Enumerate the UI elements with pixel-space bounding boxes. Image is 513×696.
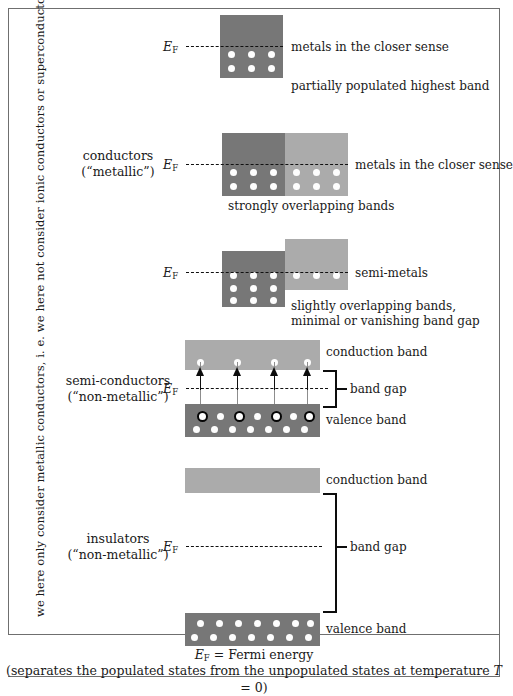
electron-dot: [307, 620, 314, 627]
electron-dot: [248, 65, 255, 72]
row5-conduction-label: conduction band: [326, 472, 427, 488]
electron-dot: [270, 183, 277, 190]
hole-dot: [197, 411, 208, 422]
band-gap-bracket-insulator: [323, 493, 337, 613]
electron-dot: [193, 426, 200, 433]
frame-right-border: [499, 8, 500, 677]
caption-line-2: (separates the populated states from the…: [0, 662, 508, 696]
category-line1: semi-conductors: [33, 373, 203, 389]
electron-dot: [313, 183, 320, 190]
band-block-row3-left: [222, 251, 285, 307]
band-block-row3-right: [285, 239, 348, 290]
hole-dot: [234, 411, 245, 422]
caption-line2-post: = 0): [240, 680, 267, 695]
category-line2: (“non-metallic”): [33, 389, 203, 405]
electron-dot: [229, 426, 236, 433]
row1-sub-label: partially populated highest band: [291, 78, 490, 94]
electron-dot: [268, 51, 275, 58]
frame-top-border: [8, 8, 500, 9]
electron-dot: [250, 183, 257, 190]
fermi-subscript: F: [172, 45, 178, 55]
electron-dot: [273, 620, 280, 627]
electron-dot: [270, 169, 277, 176]
band-gap-bracket-tick: [337, 546, 347, 548]
electron-dot: [250, 297, 257, 304]
electron-dot: [248, 51, 255, 58]
electron-dot: [267, 634, 274, 641]
electron-dot: [333, 169, 340, 176]
electron-dot: [283, 426, 290, 433]
excitation-arrow-head: [303, 367, 311, 376]
electron-dot: [270, 272, 277, 279]
fermi-line-row1: [186, 46, 283, 47]
caption-line2-pre: (separates the populated states from the…: [6, 663, 494, 678]
category-label-semiconductors: semi-conductors (“non-metallic”): [33, 373, 203, 405]
electron-dot: [290, 413, 297, 420]
fermi-label-row1: EF: [163, 39, 178, 54]
electron-dot: [228, 51, 235, 58]
electron-dot: [229, 634, 236, 641]
electron-dot: [313, 272, 320, 279]
electron-dot: [293, 169, 300, 176]
band-gap-bracket-semiconductor: [323, 370, 337, 408]
electron-dot: [270, 285, 277, 292]
fermi-symbol: E: [163, 265, 172, 280]
category-line2: (“non-metallic”): [33, 547, 203, 563]
caption-fermi-symbol: E: [195, 647, 204, 662]
electron-dot: [333, 272, 340, 279]
fermi-line-row5: [186, 546, 322, 547]
fermi-subscript: F: [172, 271, 178, 281]
row5-gap-label: band gap: [350, 539, 407, 555]
row2-right-label: metals in the closer sense: [355, 157, 513, 173]
electron-dot: [230, 297, 237, 304]
caption-fermi-rest: = Fermi energy: [210, 647, 314, 662]
valence-band-semiconductor: [185, 404, 320, 437]
category-line2: (“metallic”): [33, 164, 203, 180]
electron-dot: [270, 297, 277, 304]
caption-temperature-var: T: [494, 663, 502, 678]
electron-dot: [250, 169, 257, 176]
electron-dot: [292, 620, 299, 627]
category-label-conductors: conductors (“metallic”): [33, 148, 203, 180]
fermi-label-row3: EF: [163, 265, 178, 280]
electron-dot: [230, 183, 237, 190]
electron-dot: [211, 426, 218, 433]
hole-dot: [304, 411, 315, 422]
electron-dot: [228, 65, 235, 72]
category-label-insulators: insulators (“non-metallic”): [33, 531, 203, 563]
electron-dot: [333, 183, 340, 190]
electron-dot: [305, 634, 312, 641]
electron-dot: [235, 620, 242, 627]
electron-dot: [217, 413, 224, 420]
electron-dot: [247, 426, 254, 433]
electron-dot: [210, 634, 217, 641]
fermi-line-row4: [186, 388, 328, 389]
electron-dot: [230, 285, 237, 292]
electron-dot: [313, 169, 320, 176]
electron-dot: [254, 413, 261, 420]
electron-dot: [254, 620, 261, 627]
side-note-text: we here only consider metallic conductor…: [33, 17, 47, 617]
category-line1: conductors: [33, 148, 203, 164]
electron-dot: [265, 426, 272, 433]
conduction-band-semiconductor: [185, 340, 320, 370]
row3-right-label: semi-metals: [355, 265, 428, 281]
electron-dot: [293, 183, 300, 190]
frame-left-border: [8, 8, 9, 635]
electron-dot: [293, 272, 300, 279]
excitation-arrow-head: [270, 367, 278, 376]
row4-gap-label: band gap: [350, 381, 407, 397]
electron-dot: [286, 634, 293, 641]
row3-sub-label-line2: minimal or vanishing band gap: [291, 313, 480, 329]
row2-sub-label: strongly overlapping bands: [228, 198, 394, 214]
electron-dot: [197, 620, 204, 627]
excitation-arrow-head: [233, 367, 241, 376]
hole-dot: [271, 411, 282, 422]
electron-dot: [250, 272, 257, 279]
electron-dot: [216, 620, 223, 627]
fermi-line-row3: [186, 272, 348, 273]
row3-sub-label-line1: slightly overlapping bands,: [291, 298, 456, 314]
band-gap-bracket-tick: [337, 388, 347, 390]
electron-dot: [248, 634, 255, 641]
